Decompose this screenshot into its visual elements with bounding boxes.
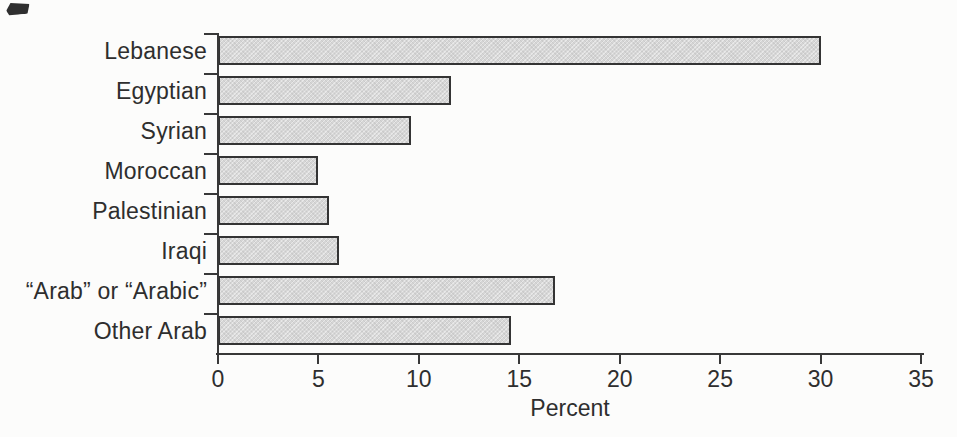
x-tick-label: 20 bbox=[607, 367, 633, 391]
bar bbox=[218, 156, 318, 185]
category-label: Palestinian bbox=[0, 199, 207, 222]
category-label: Syrian bbox=[0, 119, 207, 142]
x-tick-label: 10 bbox=[406, 367, 432, 391]
y-axis-tick bbox=[204, 73, 217, 75]
bar bbox=[218, 196, 329, 225]
bar bbox=[218, 316, 511, 345]
category-label: Egyptian bbox=[0, 79, 207, 102]
category-label: Iraqi bbox=[0, 239, 207, 262]
y-axis-tick bbox=[204, 113, 217, 115]
bar bbox=[218, 76, 451, 105]
x-axis-tick bbox=[820, 353, 822, 364]
y-axis-tick bbox=[204, 273, 217, 275]
x-axis-tick bbox=[719, 353, 721, 364]
x-axis-tick bbox=[619, 353, 621, 364]
y-axis-tick bbox=[204, 33, 217, 35]
y-axis-tick bbox=[204, 233, 217, 235]
x-axis-tick bbox=[920, 353, 922, 364]
x-tick-label: 5 bbox=[312, 367, 325, 391]
scan-artifact-mark bbox=[5, 0, 31, 16]
x-axis-tick bbox=[217, 353, 219, 364]
x-axis-tick bbox=[518, 353, 520, 364]
x-tick-label: 35 bbox=[908, 367, 934, 391]
x-tick-label: 0 bbox=[212, 367, 225, 391]
category-label: “Arab” or “Arabic” bbox=[0, 279, 207, 302]
y-axis-tick bbox=[204, 313, 217, 315]
x-axis-line bbox=[216, 353, 924, 355]
category-label: Other Arab bbox=[0, 319, 207, 342]
x-axis-tick bbox=[317, 353, 319, 364]
bar bbox=[218, 36, 821, 65]
bar bbox=[218, 236, 339, 265]
x-tick-label: 25 bbox=[707, 367, 733, 391]
x-axis-tick bbox=[418, 353, 420, 364]
category-label: Moroccan bbox=[0, 159, 207, 182]
y-axis-tick bbox=[204, 193, 217, 195]
x-tick-label: 15 bbox=[506, 367, 532, 391]
y-axis-tick bbox=[204, 153, 217, 155]
y-axis-line bbox=[217, 33, 219, 355]
x-axis-title: Percent bbox=[530, 396, 609, 420]
category-label: Lebanese bbox=[0, 39, 207, 62]
x-tick-label: 30 bbox=[808, 367, 834, 391]
bar-chart-figure: Percent LebaneseEgyptianSyrianMoroccanPa… bbox=[0, 0, 957, 437]
bar bbox=[218, 276, 555, 305]
bar bbox=[218, 116, 411, 145]
